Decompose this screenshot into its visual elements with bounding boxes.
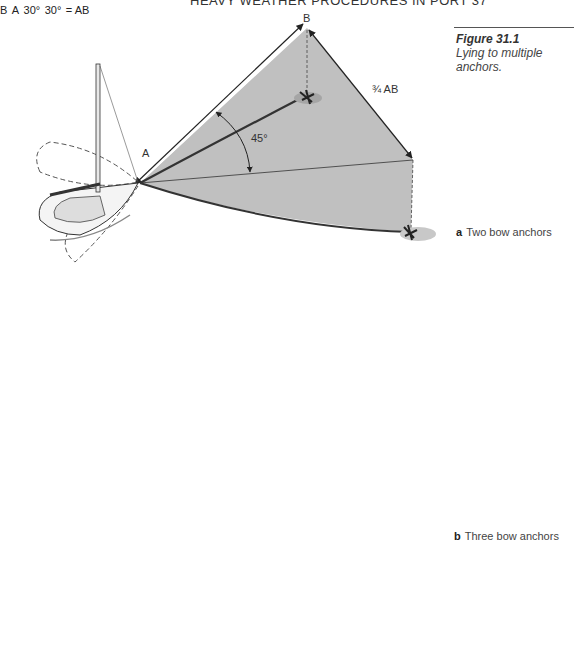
panel-b-caption: bThree bow anchors	[454, 530, 559, 542]
panel-b-letter: b	[454, 530, 461, 542]
panel-a-label-b: B	[303, 12, 310, 24]
panel-a-letter: a	[456, 226, 462, 238]
panel-a-diagram: B A 45° ¾ AB	[37, 12, 436, 262]
panel-a-distance: ¾ AB	[372, 83, 398, 95]
panel-a-caption: aTwo bow anchors	[456, 226, 552, 238]
sailboat-icon	[37, 64, 138, 262]
panel-a-sector	[140, 28, 413, 232]
panel-b-caption-text: Three bow anchors	[465, 530, 559, 542]
panel-a-label-a: A	[142, 147, 150, 159]
panel-a-caption-text: Two bow anchors	[466, 226, 552, 238]
anchor-icon	[400, 225, 436, 241]
figure-illustration: B A 45° ¾ AB	[0, 0, 574, 666]
panel-a-angle: 45°	[251, 132, 268, 144]
